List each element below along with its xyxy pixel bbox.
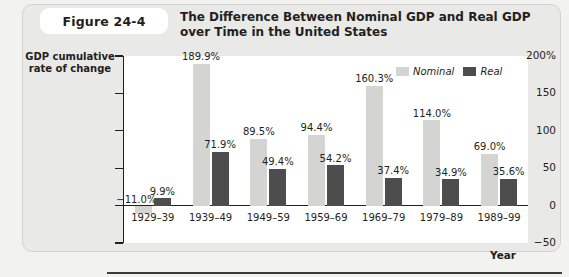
y-axis-tick-label: 200% [459, 49, 569, 61]
bar-value-label: 71.9% [192, 139, 248, 150]
x-axis-category-label: 1939–49 [180, 212, 242, 223]
bar-real-1949–59 [269, 169, 286, 206]
x-axis-category-label: 1929–39 [122, 212, 184, 223]
bar-nominal-1959–69 [308, 135, 325, 206]
bar-real-1979–89 [442, 179, 459, 205]
bar-value-label: 69.0% [462, 141, 518, 152]
bar-value-label: 94.4% [289, 122, 345, 133]
x-axis-category-label: 1989–99 [468, 212, 530, 223]
legend-label-nominal: Nominal [413, 66, 454, 77]
bar-value-label: 54.2% [308, 153, 364, 164]
y-axis-tick [115, 242, 123, 243]
y-axis-title-line2: rate of change [18, 63, 122, 75]
bar-value-label: 189.9% [173, 51, 229, 62]
y-axis-tick [115, 168, 123, 169]
x-axis-title: Year [490, 249, 516, 261]
x-axis-category-label: 1969–79 [353, 212, 415, 223]
bar-value-label: 9.9% [134, 186, 190, 197]
y-axis-title: GDP cumulative rate of change [18, 51, 122, 75]
y-axis-tick [115, 205, 123, 206]
y-axis-tick-label: 150 [459, 86, 569, 98]
bar-real-1969–79 [385, 178, 402, 206]
legend-item-nominal: Nominal [396, 66, 454, 77]
bar-value-label: 35.6% [481, 166, 537, 177]
chart-legend: Nominal Real [396, 66, 502, 77]
bar-nominal-1989–99 [481, 154, 498, 206]
y-axis-tick [115, 55, 123, 56]
bar-value-label: 114.0% [404, 108, 460, 119]
y-axis-tick [115, 130, 123, 131]
bar-value-label: 34.9% [423, 167, 479, 178]
x-axis-category-label: 1979–89 [410, 212, 472, 223]
y-axis-title-line1: GDP cumulative [18, 51, 122, 63]
y-axis-tick-label: 100 [459, 124, 569, 136]
bar-real-1929–39 [154, 198, 171, 205]
bar-value-label: 89.5% [231, 126, 287, 137]
figure-number-label: Figure 24-4 [62, 14, 145, 29]
bar-nominal-1979–89 [423, 120, 440, 205]
bar-nominal-1939–49 [193, 64, 210, 206]
bar-value-label: 37.4% [365, 165, 421, 176]
bar-real-1939–49 [212, 152, 229, 206]
bar-nominal-1949–59 [250, 139, 267, 206]
y-axis-tick-label: −50 [459, 236, 569, 248]
bar-real-1959–69 [327, 165, 344, 206]
legend-label-real: Real [480, 66, 502, 77]
legend-swatch-real [463, 67, 476, 76]
bar-nominal-1969–79 [366, 86, 383, 206]
zero-baseline [123, 205, 528, 206]
bottom-divider [107, 272, 562, 274]
x-axis-category-label: 1959–69 [295, 212, 357, 223]
bar-real-1989–99 [500, 179, 517, 206]
bar-value-label: 160.3% [346, 73, 402, 84]
figure-page: Figure 24-4 The Difference Between Nomin… [0, 0, 569, 277]
y-axis-tick [115, 93, 123, 94]
bar-value-label: 49.4% [250, 156, 306, 167]
x-axis-category-label: 1949–59 [237, 212, 299, 223]
figure-title: The Difference Between Nominal GDP and R… [180, 10, 552, 39]
figure-number-badge: Figure 24-4 [40, 8, 168, 34]
legend-item-real: Real [463, 66, 502, 77]
